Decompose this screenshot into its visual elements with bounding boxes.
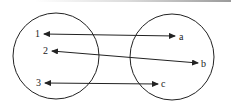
domain-label-2: 2 [43, 45, 48, 56]
codomain-set-circle [130, 14, 214, 100]
arrow-1-a [44, 34, 175, 36]
codomain-label-b: b [201, 58, 206, 69]
domain-label-1: 1 [35, 28, 40, 39]
domain-label-3: 3 [36, 77, 41, 88]
codomain-label-c: c [161, 78, 166, 89]
arrow-3-c [45, 83, 158, 84]
domain-set-circle [13, 13, 99, 99]
arrow-2-b [52, 51, 198, 63]
codomain-label-a: a [179, 31, 184, 42]
mapping-diagram: 1 2 3 a b c [0, 0, 231, 107]
